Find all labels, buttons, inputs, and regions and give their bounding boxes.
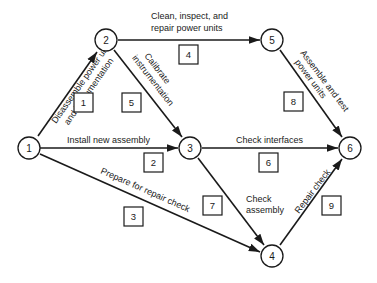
node-3: 3 [179, 137, 201, 159]
activity-box-9: 9 [322, 196, 341, 215]
activity-box-8: 8 [284, 92, 303, 111]
activity-box-3: 3 [124, 207, 143, 226]
node-4: 4 [261, 245, 283, 267]
activity-network-diagram: Disassemble power units and instrumentat… [0, 0, 377, 283]
svg-text:6: 6 [266, 157, 271, 168]
activity-box-7: 7 [203, 196, 222, 215]
activity-4-label: Clean, inspect, and repair power units [151, 11, 231, 33]
svg-text:2: 2 [151, 157, 156, 168]
svg-text:9: 9 [329, 200, 334, 211]
activity-6-label: Check interfaces [236, 135, 304, 145]
node-6: 6 [339, 137, 361, 159]
activity-box-6: 6 [259, 153, 278, 172]
svg-text:3: 3 [187, 143, 193, 154]
svg-text:4: 4 [269, 251, 275, 262]
svg-text:2: 2 [103, 35, 109, 46]
svg-text:5: 5 [269, 35, 275, 46]
activity-7-label: Check assembly [246, 194, 285, 215]
activity-box-2: 2 [144, 153, 163, 172]
svg-text:5: 5 [129, 97, 134, 108]
node-1: 1 [18, 137, 40, 159]
svg-text:1: 1 [81, 97, 86, 108]
activity-box-1: 1 [74, 93, 93, 112]
activity-2-label: Install new assembly [67, 135, 151, 145]
svg-text:1: 1 [26, 143, 32, 154]
svg-text:4: 4 [186, 49, 191, 60]
node-2: 2 [95, 29, 117, 51]
activity-1-label: Disassemble power units and instrumentat… [49, 35, 125, 131]
svg-text:8: 8 [291, 96, 296, 107]
activity-3-label: Prepare for repair check [99, 166, 192, 215]
activity-box-5: 5 [122, 93, 141, 112]
svg-text:3: 3 [131, 211, 136, 222]
activity-box-4: 4 [179, 45, 198, 64]
node-5: 5 [261, 29, 283, 51]
svg-text:7: 7 [210, 200, 215, 211]
svg-text:6: 6 [347, 143, 353, 154]
